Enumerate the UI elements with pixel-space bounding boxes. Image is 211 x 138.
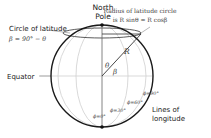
R-label: R xyxy=(123,47,130,56)
radius-label-2: is R sinθ = R cosβ xyxy=(113,16,168,24)
circle-of-latitude-label: Circle of latitude xyxy=(9,25,67,33)
radius-label-1: Radius of latitude circle xyxy=(104,7,177,14)
south-pole-dot xyxy=(100,125,104,129)
sphere-diagram: North Pole Circle of latitude β = 90° − … xyxy=(0,0,211,138)
phi-90-label: ϕ=90° xyxy=(143,91,159,96)
phi-0-label: ϕ=0° xyxy=(93,114,106,119)
equator-label: Equator xyxy=(7,73,35,81)
north-pole-dot xyxy=(100,23,104,27)
lines-of-longitude-label-2: longitude xyxy=(152,115,185,123)
beta-label: β xyxy=(112,68,117,76)
phi-30-label: ϕ=30° xyxy=(110,108,126,113)
phi-60-label: ϕ=60° xyxy=(127,100,143,105)
radius-leader xyxy=(141,27,150,33)
lines-of-longitude-label-1: Lines of xyxy=(152,106,180,114)
beta-formula-label: β = 90° − θ xyxy=(8,35,46,43)
